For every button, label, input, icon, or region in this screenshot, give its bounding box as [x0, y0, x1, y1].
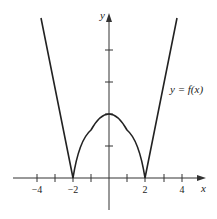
function-plot: −4 −2 2 4 x y y = f(x): [0, 0, 217, 219]
x-tick-label-2: 2: [143, 184, 148, 195]
x-axis-arrow-icon: [197, 175, 206, 181]
y-axis-arrow-icon: [106, 13, 112, 22]
y-axis-label: y: [99, 9, 105, 21]
x-tick-label-neg2: −2: [68, 184, 79, 195]
x-tick-label-4: 4: [180, 184, 185, 195]
x-tick-label-neg4: −4: [32, 184, 43, 195]
x-axis-label: x: [200, 182, 206, 194]
curve-label: y = f(x): [169, 83, 203, 96]
